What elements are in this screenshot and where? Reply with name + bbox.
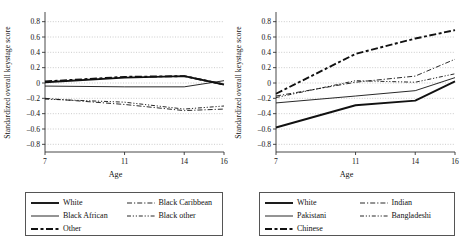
plot-area-right: Standardized overall keystage score –0.8… bbox=[231, 0, 462, 190]
legend-label: Black other bbox=[159, 212, 196, 220]
svg-text:0.4: 0.4 bbox=[31, 48, 41, 57]
legend-swatch-icon bbox=[360, 212, 388, 220]
legend-label: White bbox=[297, 199, 317, 207]
plot-svg-left: –0.8–0.6–0.4–0.200.20.40.60.87111416 bbox=[0, 0, 231, 175]
legend-item-bangladeshi: Bangladeshi bbox=[360, 209, 455, 222]
legend-swatch-icon bbox=[360, 199, 388, 207]
svg-text:–0.8: –0.8 bbox=[257, 140, 271, 149]
legend-label: White bbox=[63, 199, 83, 207]
series-line-chinese bbox=[276, 30, 455, 94]
svg-text:–0.8: –0.8 bbox=[26, 140, 40, 149]
svg-text:–0.6: –0.6 bbox=[26, 125, 40, 134]
svg-text:0.8: 0.8 bbox=[31, 17, 41, 26]
legend-item-white: White bbox=[265, 196, 360, 209]
chart-panel-left: Standardized overall keystage score –0.8… bbox=[0, 0, 231, 250]
legend-item-chinese: Chinese bbox=[265, 222, 360, 235]
legend-label: Indian bbox=[392, 199, 412, 207]
svg-text:0.8: 0.8 bbox=[262, 17, 272, 26]
two-panel-line-chart-figure: Standardized overall keystage score –0.8… bbox=[0, 0, 462, 250]
legend-label: Bangladeshi bbox=[392, 212, 432, 220]
svg-text:–0.4: –0.4 bbox=[26, 109, 40, 118]
svg-text:–0.6: –0.6 bbox=[257, 125, 271, 134]
legend-swatch-icon bbox=[127, 212, 155, 220]
svg-text:0.4: 0.4 bbox=[262, 48, 272, 57]
series-line-white bbox=[276, 81, 455, 127]
svg-text:7: 7 bbox=[274, 157, 278, 166]
svg-text:0.6: 0.6 bbox=[31, 33, 41, 42]
legend-item-other: Other bbox=[31, 222, 127, 235]
legend-swatch-icon bbox=[265, 225, 293, 233]
svg-text:14: 14 bbox=[411, 157, 419, 166]
plot-svg-right: –0.8–0.6–0.4–0.200.20.40.60.87111416 bbox=[231, 0, 462, 175]
svg-text:0.2: 0.2 bbox=[262, 63, 272, 72]
legend-item-black-caribbean: Black Caribbean bbox=[127, 196, 223, 209]
series-line-pakistani bbox=[276, 78, 455, 103]
legend-item-white: White bbox=[31, 196, 127, 209]
legend-item-black-african: Black African bbox=[31, 209, 127, 222]
legend-swatch-icon bbox=[31, 225, 59, 233]
legend-item-pakistani: Pakistani bbox=[265, 209, 360, 222]
legend-swatch-icon bbox=[265, 199, 293, 207]
svg-text:–0.4: –0.4 bbox=[257, 109, 271, 118]
legend-swatch-icon bbox=[265, 212, 293, 220]
legend-item-indian: Indian bbox=[360, 196, 455, 209]
svg-text:7: 7 bbox=[43, 157, 47, 166]
legend-label: Chinese bbox=[297, 225, 323, 233]
svg-text:–0.2: –0.2 bbox=[257, 94, 271, 103]
legend-item-black-other: Black other bbox=[127, 209, 223, 222]
legend-swatch-icon bbox=[31, 212, 59, 220]
svg-text:16: 16 bbox=[451, 157, 459, 166]
svg-text:14: 14 bbox=[180, 157, 188, 166]
legend-left: WhiteBlack CaribbeanBlack AfricanBlack o… bbox=[25, 192, 223, 236]
series-line-black-other bbox=[45, 99, 224, 109]
svg-text:0: 0 bbox=[267, 79, 271, 88]
svg-text:0: 0 bbox=[36, 79, 40, 88]
series-line-indian bbox=[276, 59, 455, 96]
y-axis-label-left: Standardized overall keystage score bbox=[0, 0, 15, 165]
x-axis-label-right: Age bbox=[231, 170, 462, 179]
svg-text:0.6: 0.6 bbox=[262, 33, 272, 42]
y-axis-label-right: Standardized overall keystage score bbox=[230, 0, 246, 165]
plot-area-left: Standardized overall keystage score –0.8… bbox=[0, 0, 231, 190]
legend-swatch-icon bbox=[31, 199, 59, 207]
legend-swatch-icon bbox=[127, 199, 155, 207]
svg-text:11: 11 bbox=[352, 157, 360, 166]
legend-label: Other bbox=[63, 225, 81, 233]
chart-panel-right: Standardized overall keystage score –0.8… bbox=[231, 0, 462, 250]
legend-label: Black Caribbean bbox=[159, 199, 213, 207]
svg-text:16: 16 bbox=[220, 157, 228, 166]
svg-text:0.2: 0.2 bbox=[31, 63, 41, 72]
legend-right: WhiteIndianPakistaniBangladeshiChinese bbox=[259, 192, 455, 236]
x-axis-label-left: Age bbox=[0, 170, 231, 179]
svg-text:–0.2: –0.2 bbox=[26, 94, 40, 103]
legend-label: Pakistani bbox=[297, 212, 326, 220]
legend-label: Black African bbox=[63, 212, 108, 220]
svg-text:11: 11 bbox=[121, 157, 129, 166]
